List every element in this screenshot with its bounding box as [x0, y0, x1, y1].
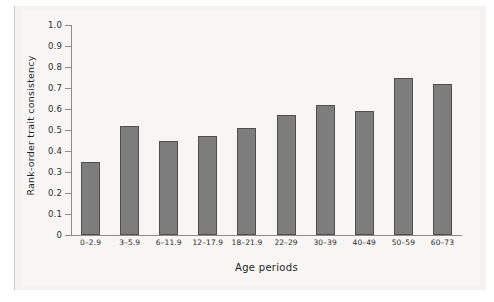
bar [394, 78, 413, 236]
bar [81, 162, 100, 236]
y-axis-tick-label: 0.7 [38, 83, 62, 93]
bar [159, 141, 178, 236]
x-axis-tick-label: 60–73 [416, 238, 468, 247]
bar [316, 105, 335, 235]
bar-series [71, 25, 462, 235]
bar [433, 84, 452, 235]
y-axis-tick-label: 1.0 [38, 20, 62, 30]
y-axis-title: Rank-order trait consistency [25, 41, 36, 211]
y-axis-tick-label: 0.2 [38, 188, 62, 198]
figure-container: 1.00.90.80.70.60.50.40.30.20.10 Rank-ord… [0, 0, 494, 302]
bar-chart: 1.00.90.80.70.60.50.40.30.20.10 Rank-ord… [0, 0, 494, 302]
y-axis-tick-label: 0.5 [38, 125, 62, 135]
x-axis-line [71, 235, 462, 236]
y-axis-tick-label: 0.8 [38, 62, 62, 72]
bar [237, 128, 256, 235]
x-axis-title: Age periods [71, 262, 462, 273]
y-axis-tick-label: 0.1 [38, 209, 62, 219]
x-axis-tick-labels: 0–2.93–5.96–11.912–17.918–21.922–2930–39… [71, 238, 462, 254]
bar [277, 115, 296, 235]
y-axis-tick-label: 0.9 [38, 41, 62, 51]
y-axis-tick-label: 0.6 [38, 104, 62, 114]
y-axis-tick-label: 0 [38, 230, 62, 240]
y-axis-tick-label: 0.3 [38, 167, 62, 177]
y-axis-tick-label: 0.4 [38, 146, 62, 156]
bar [198, 136, 217, 235]
bar [355, 111, 374, 235]
bar [120, 126, 139, 235]
y-axis-tick [65, 235, 71, 236]
